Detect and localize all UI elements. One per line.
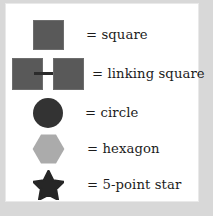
- legend-row-linking-square: = linking square: [6, 56, 198, 92]
- hexagon-icon: [32, 134, 65, 164]
- legend-label-linking-square: = linking square: [92, 67, 205, 81]
- star-icon: [33, 170, 64, 200]
- legend-glyph-cell: [6, 167, 90, 203]
- legend-figure: = square = linking square = circle: [0, 0, 213, 216]
- linking-square-right: [53, 58, 84, 90]
- legend-panel: = square = linking square = circle: [6, 4, 198, 201]
- legend-label-hexagon: = hexagon: [87, 142, 198, 156]
- legend-glyph-cell: [6, 131, 90, 167]
- legend-label-star: = 5-point star: [87, 178, 198, 192]
- legend-label-square: = square: [86, 28, 198, 42]
- legend-label-circle: = circle: [85, 106, 198, 120]
- legend-row-star: = 5-point star: [6, 168, 198, 202]
- legend-row-square: = square: [6, 18, 198, 52]
- square-icon: [33, 20, 64, 50]
- legend-row-circle: = circle: [6, 96, 198, 130]
- legend-glyph-cell: [6, 56, 90, 92]
- legend-glyph-cell: [6, 17, 90, 53]
- legend-row-hexagon: = hexagon: [6, 132, 198, 166]
- circle-icon: [33, 98, 63, 128]
- legend-glyph-cell: [6, 95, 90, 131]
- linking-square-icon: [12, 58, 84, 90]
